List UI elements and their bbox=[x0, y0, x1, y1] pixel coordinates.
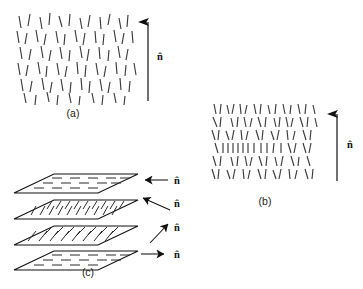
plane-3-rods bbox=[34, 255, 130, 265]
figure-canvas: n̂ (a) bbox=[0, 0, 363, 289]
director-label-c-3: n̂ bbox=[174, 249, 180, 260]
director-label-a: n̂ bbox=[157, 51, 163, 62]
cholesteric-plane-3 bbox=[14, 251, 138, 270]
panel-label-c: (c) bbox=[82, 266, 94, 278]
director-label-c-0: n̂ bbox=[174, 175, 180, 186]
panel-b-smectic: n̂ (b) bbox=[212, 104, 353, 207]
director-label-b: n̂ bbox=[347, 139, 353, 150]
cholesteric-plane-2 bbox=[14, 226, 138, 245]
cholesteric-plane-1 bbox=[14, 200, 138, 219]
cholesteric-plane-0 bbox=[14, 174, 138, 193]
plane-0-rods bbox=[34, 178, 130, 188]
panel-c-cholesteric: n̂ n̂ n̂ n̂ (c) bbox=[14, 174, 180, 278]
liquid-crystal-figure: n̂ (a) bbox=[0, 0, 363, 289]
director-label-c-1: n̂ bbox=[174, 198, 180, 209]
nematic-rod-field bbox=[17, 13, 136, 105]
panel-label-b: (b) bbox=[259, 195, 272, 207]
director-arrow-c-2 bbox=[150, 224, 168, 243]
panel-label-a: (a) bbox=[67, 107, 80, 119]
panel-a-nematic: n̂ (a) bbox=[17, 13, 163, 119]
smectic-rod-field bbox=[212, 104, 317, 179]
director-label-c-2: n̂ bbox=[174, 222, 180, 233]
director-arrow-c-1 bbox=[143, 198, 170, 210]
plane-2-rods bbox=[28, 227, 118, 241]
